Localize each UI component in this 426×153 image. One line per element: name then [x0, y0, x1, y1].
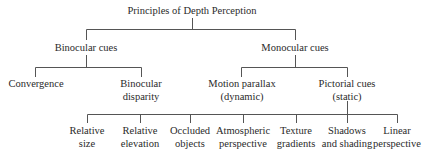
linear-perspective-node: Linear perspective — [373, 125, 421, 150]
atmospheric-perspective-node: Atmospheric perspective — [216, 125, 270, 150]
shadows-shading-node: Shadows and shading — [322, 125, 372, 150]
motion-parallax-node: Motion parallax (dynamic) — [208, 78, 275, 103]
pictorial-cues-node: Pictorial cues (static) — [319, 78, 376, 103]
relative-size-node: Relative size — [70, 125, 105, 150]
binocular-disparity-node: Binocular disparity — [120, 78, 161, 103]
texture-gradients-node: Texture gradients — [277, 125, 316, 150]
relative-elevation-node: Relative elevation — [121, 125, 159, 150]
convergence-node: Convergence — [8, 78, 63, 91]
binocular-cues-node: Binocular cues — [55, 42, 118, 55]
root-node: Principles of Depth Perception — [127, 5, 256, 18]
monocular-cues-node: Monocular cues — [261, 42, 328, 55]
occluded-objects-node: Occluded objects — [170, 125, 210, 150]
